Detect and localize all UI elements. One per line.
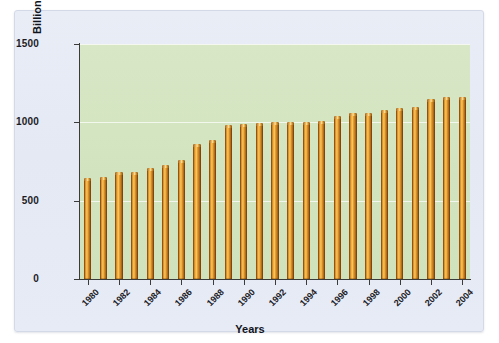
bar-cap — [225, 125, 232, 128]
bar — [178, 160, 185, 279]
bar-cap — [303, 122, 310, 125]
bar-cap — [193, 144, 200, 147]
x-axis-tick — [88, 280, 89, 285]
bar-cap — [271, 122, 278, 125]
bar — [147, 168, 154, 279]
x-axis-tick — [150, 280, 151, 285]
bar-cap — [396, 108, 403, 111]
bar — [193, 144, 200, 279]
x-axis-tick — [400, 280, 401, 285]
bar — [100, 177, 107, 279]
bar-cap — [240, 124, 247, 127]
bar — [318, 121, 325, 279]
x-axis-tick — [275, 280, 276, 285]
bar — [349, 113, 356, 279]
y-axis-tick — [74, 44, 80, 45]
bar — [303, 122, 310, 279]
bar — [209, 140, 216, 279]
gridline-y — [80, 44, 470, 45]
bar-cap — [100, 177, 107, 180]
x-axis-tick — [181, 280, 182, 285]
bar — [256, 123, 263, 279]
bar-cap — [84, 178, 91, 181]
y-axis-line — [79, 43, 80, 280]
bar-cap — [115, 172, 122, 175]
bar-cap — [334, 116, 341, 119]
chart-figure: Billion Barrels of Oil Years 05001000150… — [0, 0, 499, 343]
bar — [84, 178, 91, 279]
bar-cap — [162, 165, 169, 168]
bar — [287, 122, 294, 279]
bar — [271, 122, 278, 279]
x-axis-tick — [337, 280, 338, 285]
bar — [162, 165, 169, 279]
bar — [365, 113, 372, 279]
x-axis-tick — [244, 280, 245, 285]
y-axis-tick-label: 0 — [0, 273, 39, 284]
x-axis-tick — [462, 280, 463, 285]
x-axis-tick — [306, 280, 307, 285]
bar-cap — [365, 113, 372, 116]
y-axis-tick — [74, 201, 80, 202]
bar-cap — [443, 97, 450, 100]
bar-cap — [178, 160, 185, 163]
bar — [459, 97, 466, 279]
bar — [412, 107, 419, 279]
y-axis-tick-label: 1500 — [0, 38, 39, 49]
y-axis-tick — [74, 122, 80, 123]
bar-cap — [209, 140, 216, 143]
chart-panel: Billion Barrels of Oil Years 05001000150… — [14, 10, 484, 332]
y-axis-tick-label: 1000 — [0, 116, 39, 127]
x-axis-tick — [431, 280, 432, 285]
bar — [131, 172, 138, 279]
y-axis-title: Billion Barrels of Oil — [31, 0, 43, 71]
bar — [115, 172, 122, 279]
bar — [225, 125, 232, 279]
bar-cap — [459, 97, 466, 100]
bar-cap — [147, 168, 154, 171]
bar-cap — [381, 110, 388, 113]
bar-cap — [412, 107, 419, 110]
x-axis-tick — [213, 280, 214, 285]
bar-cap — [318, 121, 325, 124]
bar-cap — [131, 172, 138, 175]
y-axis-tick — [74, 279, 80, 280]
plot-area — [80, 44, 470, 279]
bar — [381, 110, 388, 279]
y-axis-tick-label: 500 — [0, 195, 39, 206]
bar — [443, 97, 450, 279]
bar-cap — [427, 99, 434, 102]
bar — [396, 108, 403, 279]
bar — [427, 99, 434, 279]
bar-cap — [349, 113, 356, 116]
x-axis-tick — [119, 280, 120, 285]
bar — [240, 124, 247, 279]
bar-cap — [256, 123, 263, 126]
bar — [334, 116, 341, 279]
x-axis-tick — [369, 280, 370, 285]
bar-cap — [287, 122, 294, 125]
